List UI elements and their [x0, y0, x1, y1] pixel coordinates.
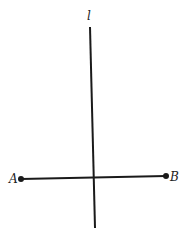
point-b-label: B — [169, 170, 179, 184]
point-a — [18, 176, 24, 182]
line-l — [90, 27, 95, 228]
geometry-diagram: l A B — [0, 0, 188, 241]
line-l-label: l — [87, 9, 91, 23]
point-b — [163, 173, 169, 179]
point-a-label: A — [8, 172, 18, 186]
